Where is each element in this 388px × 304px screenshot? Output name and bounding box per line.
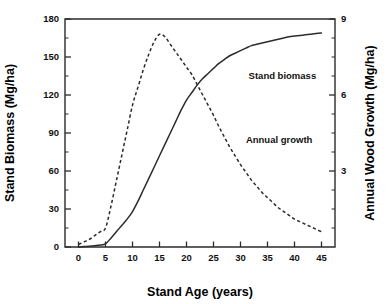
chart-background — [0, 0, 388, 304]
x-tick-label: 25 — [208, 252, 219, 263]
x-axis-title: Stand Age (years) — [147, 285, 253, 299]
chart-canvas: 0306090120150180369051015202530354045 St… — [0, 0, 388, 304]
y2-tick-label: 9 — [341, 13, 346, 24]
x-tick-label: 30 — [235, 252, 246, 263]
y-tick-label: 180 — [43, 13, 59, 24]
stand-biomass-label: Stand biomass — [249, 70, 317, 81]
y-axis-title: Stand Biomass (Mg/ha) — [3, 64, 17, 202]
secondary-y-axis-title: Annual Wood Growth (Mg/ha) — [363, 45, 377, 220]
chart-figure: 0306090120150180369051015202530354045 St… — [0, 0, 388, 304]
x-tick-label: 45 — [316, 252, 327, 263]
x-tick-label: 10 — [127, 252, 138, 263]
y-tick-label: 0 — [54, 241, 59, 252]
y-tick-label: 30 — [48, 203, 59, 214]
y-tick-label: 90 — [48, 127, 59, 138]
y2-tick-label: 3 — [341, 165, 346, 176]
x-tick-label: 0 — [76, 252, 81, 263]
x-tick-label: 5 — [103, 252, 109, 263]
annual-growth-label: Annual growth — [246, 134, 313, 145]
x-tick-label: 35 — [262, 252, 273, 263]
y-tick-label: 150 — [43, 51, 59, 62]
x-tick-label: 20 — [181, 252, 192, 263]
y2-tick-label: 6 — [341, 89, 346, 100]
y-tick-label: 60 — [48, 165, 59, 176]
x-tick-label: 40 — [289, 252, 300, 263]
x-tick-label: 15 — [154, 252, 165, 263]
y-tick-label: 120 — [43, 89, 59, 100]
